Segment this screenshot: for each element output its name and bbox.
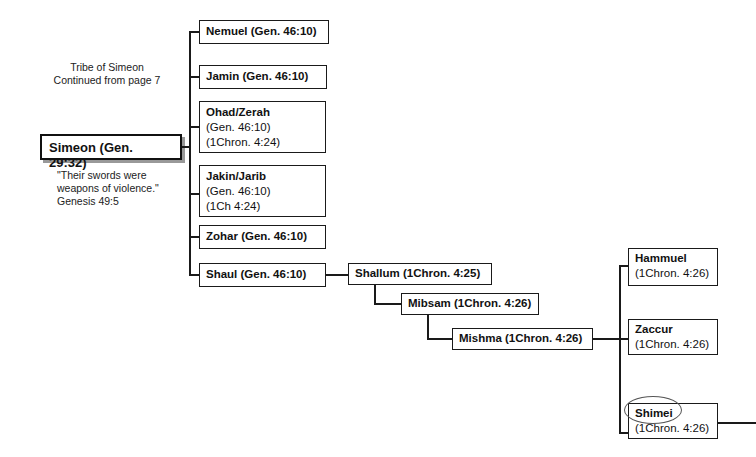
son-name: Jamin (Gen. 46:10)	[206, 70, 308, 82]
handdrawn-circle-annotation	[624, 396, 682, 424]
connector	[619, 338, 628, 340]
son-name: Zohar (Gen. 46:10)	[206, 230, 307, 242]
grandson-name: Zaccur	[635, 322, 711, 337]
son-node-zohar: Zohar (Gen. 46:10)	[199, 225, 326, 249]
grandson-ref: (1Chron. 4:26)	[635, 266, 711, 281]
connector	[189, 31, 199, 33]
son-node-nemuel: Nemuel (Gen. 46:10)	[199, 20, 329, 44]
connector	[189, 274, 199, 276]
connector	[374, 285, 376, 304]
heading-line-1: Tribe of Simeon	[52, 61, 162, 74]
son-name: Nemuel (Gen. 46:10)	[206, 25, 317, 37]
grandson-node-hammuel: Hammuel (1Chron. 4:26)	[628, 248, 718, 286]
connector	[326, 274, 348, 276]
son-node-shaul: Shaul (Gen. 46:10)	[199, 263, 326, 287]
connector	[189, 31, 191, 275]
quote-line-1: "Their swords were	[57, 169, 159, 182]
chart-heading: Tribe of Simeon Continued from page 7	[52, 61, 162, 87]
quote-line-3: Genesis 49:5	[57, 195, 159, 208]
grandson-ref: (1Chron. 4:26)	[635, 337, 711, 352]
descendant-name: Shallum (1Chron. 4:25)	[355, 267, 480, 279]
connector	[619, 265, 621, 433]
connector	[189, 76, 199, 78]
connector	[619, 432, 628, 434]
connector	[427, 338, 452, 340]
son-ref: (1Chron. 4:24)	[206, 135, 319, 150]
son-ref: (1Ch 4:24)	[206, 199, 319, 214]
descendant-name: Mishma (1Chron. 4:26)	[459, 332, 582, 344]
son-name: Jakin/Jarib	[206, 169, 319, 184]
grandson-node-zaccur: Zaccur (1Chron. 4:26)	[628, 319, 718, 355]
root-label: Simeon (Gen. 29:32)	[49, 140, 133, 170]
connector	[189, 193, 199, 195]
descendant-node-mibsam: Mibsam (1Chron. 4:26)	[401, 293, 539, 315]
descendant-node-shallum: Shallum (1Chron. 4:25)	[348, 263, 492, 285]
son-node-jakin-jarib: Jakin/Jarib (Gen. 46:10) (1Ch 4:24)	[199, 165, 326, 217]
quote-line-2: weapons of violence."	[57, 182, 159, 195]
root-node-simeon: Simeon (Gen. 29:32)	[40, 134, 182, 160]
descendant-node-mishma: Mishma (1Chron. 4:26)	[452, 328, 593, 350]
son-ref: (Gen. 46:10)	[206, 120, 319, 135]
connector	[374, 303, 401, 305]
continuation-connector	[718, 422, 756, 424]
connector	[619, 265, 628, 267]
son-ref: (Gen. 46:10)	[206, 184, 319, 199]
descendant-name: Mibsam (1Chron. 4:26)	[408, 297, 531, 309]
heading-line-2: Continued from page 7	[52, 74, 162, 87]
quote-note: "Their swords were weapons of violence."…	[57, 169, 159, 208]
grandson-name: Hammuel	[635, 251, 711, 266]
son-node-ohad-zerah: Ohad/Zerah (Gen. 46:10) (1Chron. 4:24)	[199, 101, 326, 153]
connector	[189, 126, 199, 128]
connector	[427, 315, 429, 339]
son-name: Ohad/Zerah	[206, 105, 319, 120]
connector	[189, 236, 199, 238]
son-name: Shaul (Gen. 46:10)	[206, 268, 306, 280]
son-node-jamin: Jamin (Gen. 46:10)	[199, 65, 327, 89]
connector	[593, 338, 620, 340]
